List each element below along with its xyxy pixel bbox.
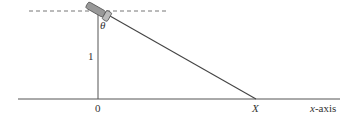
axis-suffix: -axis [315,102,336,114]
height-label: 1 [88,50,94,62]
x-axis-label: x-axis [309,102,336,114]
origin-label: 0 [95,102,101,114]
light-beam-line [110,16,256,99]
diagram-canvas: θ 1 0 X x-axis [0,0,353,121]
theta-label: θ [100,19,106,31]
intersection-label: X [251,102,260,114]
